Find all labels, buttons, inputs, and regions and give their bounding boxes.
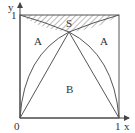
y-tick-label: 1 [11, 9, 17, 21]
region-b-label: B [66, 83, 73, 95]
region-a-left-label: A [34, 35, 42, 47]
chord-left [20, 32, 69, 118]
region-s-label: S [66, 17, 72, 29]
diagram-canvas: y 1 0 1 x S A A B [0, 0, 135, 133]
origin-label: 0 [14, 120, 20, 132]
x-axis-label: x [124, 120, 130, 132]
region-a-right-label: A [100, 35, 108, 47]
x-tick-label: 1 [115, 120, 121, 132]
chord-right [69, 32, 119, 118]
